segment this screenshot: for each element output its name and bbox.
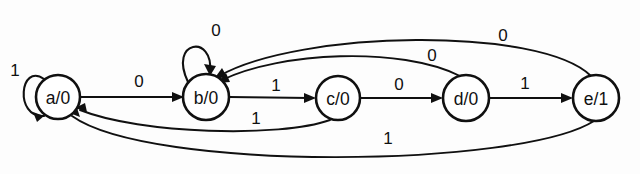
- edge-label-c-a: 1: [251, 109, 260, 128]
- state-node-d[interactable]: d/0: [443, 75, 489, 121]
- edge-label-d-b: 0: [427, 46, 436, 65]
- edge-b-to-c: [229, 93, 316, 103]
- edge-label-b-b: 0: [211, 21, 220, 40]
- state-label-b: b/0: [194, 88, 219, 108]
- edge-path-b-c: [229, 97, 310, 98]
- arrowhead-c-d: [431, 93, 443, 103]
- state-machine-svg: a/0 b/0 c/0 d/0 e/1 1 0 0 1 0 1 1 0 0 1: [0, 0, 640, 174]
- arrowhead-d-e: [561, 93, 573, 103]
- state-node-a[interactable]: a/0: [36, 75, 80, 119]
- state-diagram-canvas: a/0 b/0 c/0 d/0 e/1 1 0 0 1 0 1 1 0 0 1: [0, 0, 640, 174]
- edge-label-e-a: 1: [383, 129, 392, 148]
- state-node-b[interactable]: b/0: [183, 74, 229, 120]
- edge-label-e-b: 0: [498, 26, 507, 45]
- state-label-e: e/1: [584, 89, 608, 109]
- edge-path-e-b: [219, 40, 591, 76]
- edge-c-to-d: [360, 93, 443, 103]
- edge-d-to-e: [489, 93, 573, 103]
- edge-label-b-c: 1: [271, 76, 280, 95]
- edge-label-a-b: 0: [134, 72, 143, 91]
- edge-label-c-d: 0: [394, 75, 403, 94]
- state-label-d: d/0: [454, 89, 479, 109]
- state-label-a: a/0: [46, 88, 71, 108]
- arrowhead-b-c: [304, 93, 316, 103]
- edge-label-d-e: 1: [520, 74, 529, 93]
- state-node-e[interactable]: e/1: [573, 75, 619, 121]
- edge-a-to-b: [80, 92, 184, 102]
- edge-label-a-a: 1: [10, 61, 19, 80]
- state-node-c[interactable]: c/0: [316, 76, 360, 120]
- edge-path-e-a: [72, 116, 594, 157]
- state-label-c: c/0: [326, 89, 350, 109]
